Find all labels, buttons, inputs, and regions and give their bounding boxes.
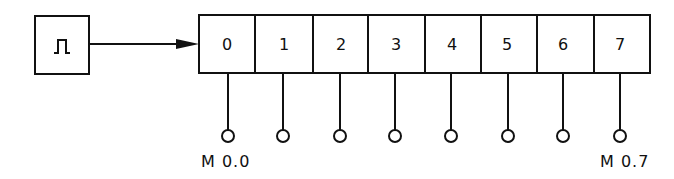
register-cell-4: 4	[447, 35, 457, 54]
output-tap-4	[445, 73, 457, 142]
register-cell-0: 0	[222, 35, 232, 54]
output-label-last: M 0.7	[600, 152, 649, 171]
output-terminal-icon	[334, 130, 346, 142]
output-tap-5	[502, 73, 514, 142]
output-terminal-icon	[222, 130, 234, 142]
output-taps	[222, 73, 626, 142]
register-cell-2: 2	[336, 35, 346, 54]
clock-arrow	[89, 39, 199, 49]
output-tap-0	[222, 73, 234, 142]
output-label-first: M 0.0	[201, 152, 250, 171]
output-terminal-icon	[614, 130, 626, 142]
output-terminal-icon	[277, 130, 289, 142]
shift-register-diagram: 0 1 2 3 4 5 6 7	[0, 0, 674, 179]
register-cell-6: 6	[558, 35, 568, 54]
output-tap-2	[334, 73, 346, 142]
output-terminal-icon	[557, 130, 569, 142]
output-tap-1	[277, 73, 289, 142]
output-tap-7	[614, 73, 626, 142]
output-terminal-icon	[502, 130, 514, 142]
pulse-generator-block	[35, 16, 89, 74]
register-cell-3: 3	[391, 35, 401, 54]
register-cell-1: 1	[279, 35, 289, 54]
output-terminal-icon	[389, 130, 401, 142]
register: 0 1 2 3 4 5 6 7	[199, 15, 650, 73]
register-cell-7: 7	[615, 35, 625, 54]
output-tap-6	[557, 73, 569, 142]
output-tap-3	[389, 73, 401, 142]
output-terminal-icon	[445, 130, 457, 142]
arrowhead-icon	[176, 39, 199, 49]
register-cell-5: 5	[502, 35, 512, 54]
